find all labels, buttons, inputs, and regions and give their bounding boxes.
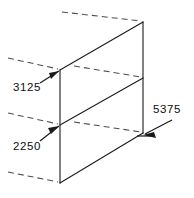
- edge-middle-diagonal: [60, 78, 143, 125]
- hidden-edge-upper-left-projection: [8, 58, 58, 69]
- leader-line-5375: [145, 120, 172, 134]
- hidden-edge-top-rear-projection: [62, 12, 141, 21]
- hidden-projection-lines: [8, 12, 141, 182]
- edge-top-diagonal: [60, 22, 143, 70]
- arrow-head-3125: [49, 71, 59, 79]
- dimension-label-3125: 3125: [13, 81, 41, 93]
- dimension-leader-lower-left: 2250: [13, 126, 59, 152]
- hidden-edge-mid-left-projection: [8, 113, 58, 124]
- dimension-leader-upper-left: 3125: [13, 71, 59, 93]
- diagram-canvas: 3125 2250 5375: [0, 0, 194, 198]
- dimension-label-2250: 2250: [13, 140, 41, 152]
- solid-body-edges: [60, 22, 143, 183]
- arrow-head-5375: [143, 132, 156, 138]
- isometric-dimension-diagram: 3125 2250 5375: [0, 0, 194, 198]
- dimension-leader-right: 5375: [137, 103, 181, 138]
- hidden-edge-bottom-left-projection: [8, 172, 58, 182]
- dimension-label-5375: 5375: [153, 103, 181, 115]
- hidden-edge-bottom-rear-projection: [74, 122, 141, 132]
- hidden-edge-mid-rear-projection: [74, 66, 141, 77]
- edge-bottom-diagonal: [60, 133, 143, 183]
